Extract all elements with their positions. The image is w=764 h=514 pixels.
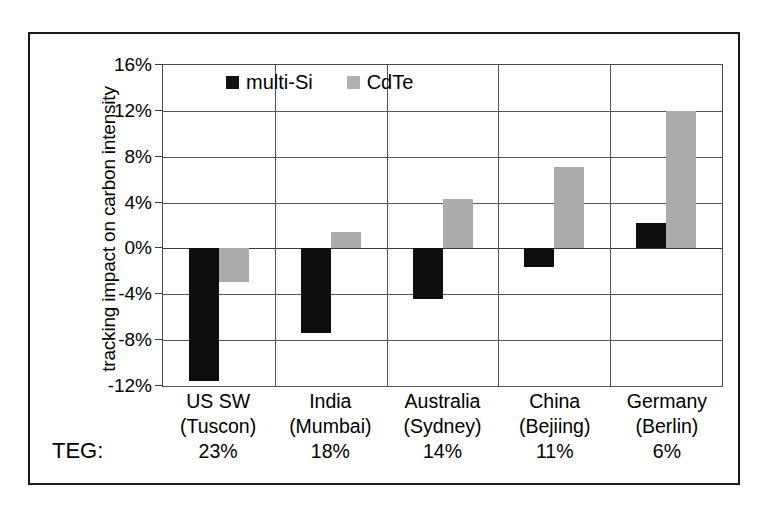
y-axis-tick-mark	[155, 339, 163, 340]
category-name: Germany	[611, 389, 723, 414]
y-axis-tick-mark	[155, 110, 163, 111]
category-label-group: China(Bejiing)11%	[499, 389, 611, 464]
bar-cdte	[554, 167, 584, 248]
gridline-horizontal	[163, 157, 722, 158]
y-axis-tick-mark	[155, 64, 163, 65]
gridline-horizontal	[163, 111, 722, 112]
legend-swatch-cdte	[347, 76, 360, 89]
gridline-horizontal	[163, 340, 722, 341]
y-axis-tick-label: 4%	[125, 192, 152, 214]
bar-multi-si	[413, 248, 443, 298]
legend-entry-cdte: CdTe	[347, 72, 414, 92]
gridline-horizontal	[163, 294, 722, 295]
y-axis-tick-mark	[155, 156, 163, 157]
category-name: US SW	[162, 389, 274, 414]
category-teg-value: 11%	[499, 439, 611, 464]
y-axis-tick-mark	[155, 385, 163, 386]
gridline-vertical	[498, 65, 499, 386]
bar-cdte	[219, 248, 249, 281]
y-axis-tick-mark	[155, 247, 163, 248]
bar-cdte	[666, 111, 696, 249]
category-city: (Berlin)	[611, 414, 723, 439]
legend-label-multi-si: multi-Si	[246, 72, 313, 92]
category-name: China	[499, 389, 611, 414]
bar-multi-si	[189, 248, 219, 381]
y-axis-tick-label: -12%	[108, 375, 152, 397]
gridline-horizontal	[163, 386, 722, 387]
category-city: (Tuscon)	[162, 414, 274, 439]
category-city: (Bejiing)	[499, 414, 611, 439]
y-axis-tick-label: 16%	[114, 54, 152, 76]
category-axis: US SW(Tuscon)23%India(Mumbai)18%Australi…	[162, 389, 723, 464]
teg-label: TEG:	[52, 438, 103, 464]
bar-multi-si	[524, 248, 554, 266]
category-teg-value: 14%	[386, 439, 498, 464]
plot-area: 16%12%8%4%0%-4%-8%-12%	[162, 64, 723, 387]
category-teg-value: 6%	[611, 439, 723, 464]
y-axis-tick-mark	[155, 293, 163, 294]
y-axis-tick-mark	[155, 202, 163, 203]
bar-cdte	[331, 232, 361, 248]
y-axis-tick-label: 8%	[125, 146, 152, 168]
legend-label-cdte: CdTe	[367, 72, 414, 92]
chart-figure: tracking impact on carbon intensity 16%1…	[0, 0, 764, 514]
y-axis-tick-label: -8%	[118, 329, 152, 351]
gridline-vertical	[610, 65, 611, 386]
bar-multi-si	[301, 248, 331, 333]
chart-legend: multi-Si CdTe	[226, 72, 413, 92]
category-label-group: US SW(Tuscon)23%	[162, 389, 274, 464]
category-city: (Mumbai)	[274, 414, 386, 439]
category-teg-value: 18%	[274, 439, 386, 464]
category-label-group: Germany(Berlin)6%	[611, 389, 723, 464]
category-city: (Sydney)	[386, 414, 498, 439]
bar-cdte	[443, 199, 473, 248]
category-name: India	[274, 389, 386, 414]
gridline-vertical	[275, 65, 276, 386]
legend-entry-multi-si: multi-Si	[226, 72, 313, 92]
category-label-group: India(Mumbai)18%	[274, 389, 386, 464]
category-teg-value: 23%	[162, 439, 274, 464]
y-axis-tick-label: 12%	[114, 100, 152, 122]
legend-swatch-multi-si	[226, 76, 239, 89]
y-axis-tick-label: -4%	[118, 283, 152, 305]
figure-border: tracking impact on carbon intensity 16%1…	[28, 32, 740, 485]
category-name: Australia	[386, 389, 498, 414]
bar-multi-si	[636, 223, 666, 248]
category-label-group: Australia(Sydney)14%	[386, 389, 498, 464]
gridline-vertical	[387, 65, 388, 386]
y-axis-tick-label: 0%	[125, 237, 152, 259]
